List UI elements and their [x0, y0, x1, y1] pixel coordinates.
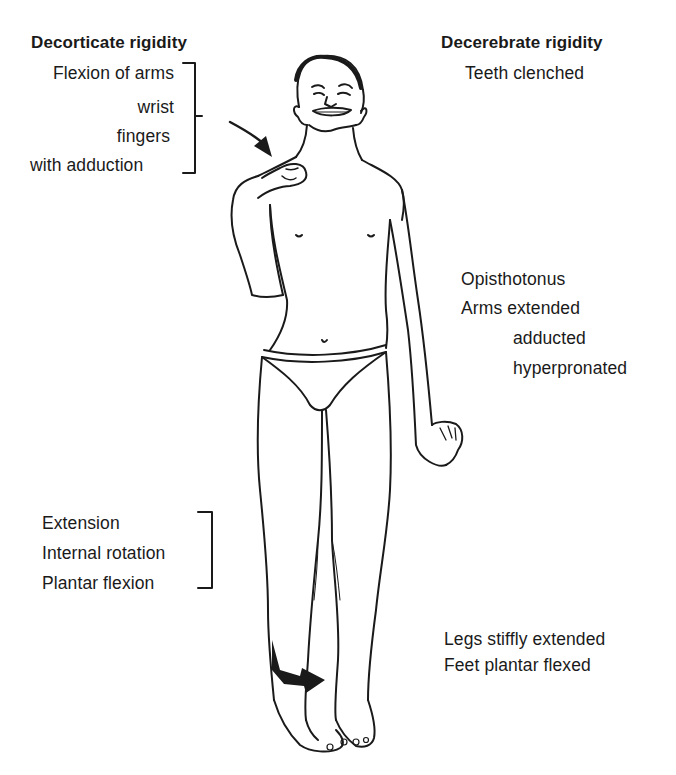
- extended-arm: [390, 190, 462, 466]
- flexed-arm: [232, 164, 307, 297]
- briefs: [262, 345, 386, 410]
- arrow-to-foot-icon: [272, 640, 325, 693]
- head: [294, 56, 366, 132]
- arms-bracket: [183, 63, 202, 173]
- torso: [258, 157, 404, 350]
- legs-bracket: [198, 512, 212, 588]
- posturing-figure: [0, 0, 676, 775]
- feet: [274, 700, 375, 752]
- arrow-to-arm-icon: [230, 122, 272, 157]
